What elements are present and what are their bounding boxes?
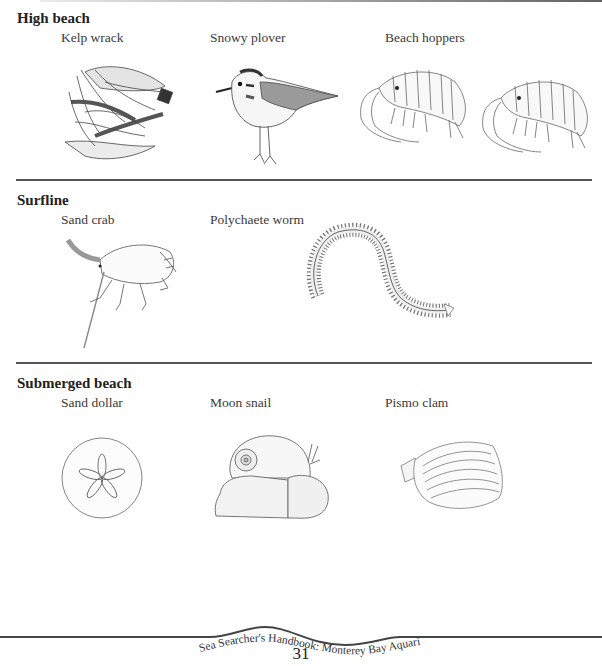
kelp-wrack-drawing (55, 62, 185, 170)
moon-snail-drawing (212, 432, 332, 522)
pismo-clam-drawing (393, 436, 505, 516)
label-moon-snail: Moon snail (210, 395, 271, 411)
section-title-high-beach: High beach (17, 10, 90, 27)
page-number: 31 (0, 644, 602, 664)
section-divider-1 (16, 179, 592, 181)
label-kelp-wrack: Kelp wrack (61, 30, 124, 46)
label-pismo-clam: Pismo clam (385, 395, 448, 411)
sand-crab-drawing (60, 238, 190, 353)
polychaete-worm-drawing (298, 222, 458, 332)
label-polychaete-worm: Polychaete worm (210, 212, 304, 228)
beach-hoppers-drawing (355, 62, 595, 162)
label-snowy-plover: Snowy plover (210, 30, 285, 46)
sand-dollar-drawing (60, 436, 144, 520)
top-divider (40, 0, 602, 2)
section-title-surfline: Surfline (17, 192, 69, 209)
label-sand-dollar: Sand dollar (61, 395, 123, 411)
section-title-submerged-beach: Submerged beach (17, 375, 132, 392)
label-beach-hoppers: Beach hoppers (385, 30, 465, 46)
label-sand-crab: Sand crab (61, 212, 115, 228)
snowy-plover-drawing (210, 60, 340, 170)
section-divider-2 (16, 362, 592, 364)
